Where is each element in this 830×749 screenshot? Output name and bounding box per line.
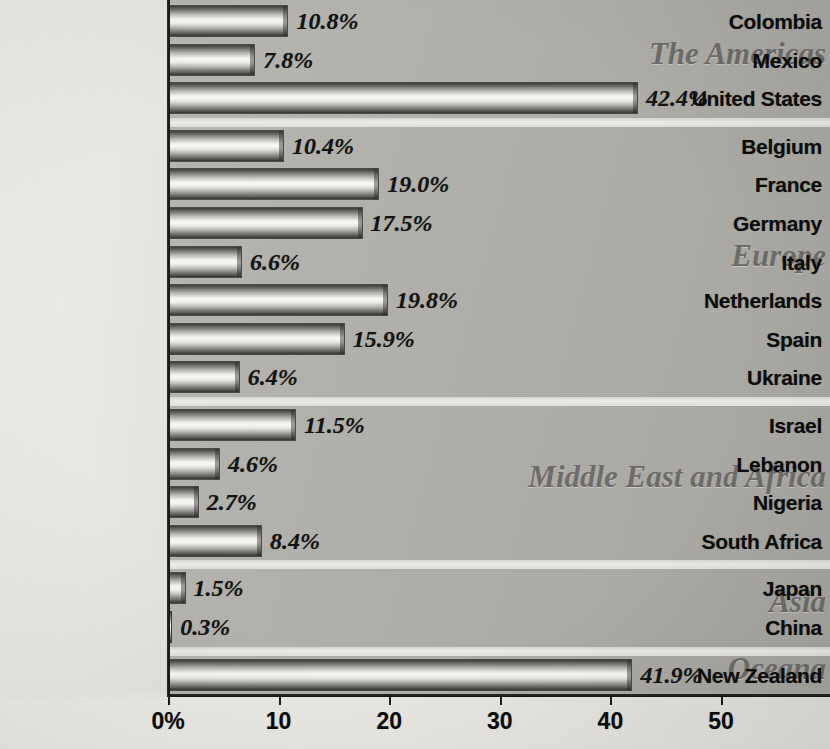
bar-value-label: 6.4% xyxy=(248,364,298,391)
x-axis-tick-label: 40 xyxy=(598,708,624,735)
bar xyxy=(168,6,287,36)
bar xyxy=(168,169,378,199)
category-label: Japan xyxy=(662,577,822,601)
bar-value-label: 1.5% xyxy=(194,575,244,602)
category-label: Belgium xyxy=(662,135,822,159)
region-separator xyxy=(168,560,830,569)
bar-end-cap xyxy=(383,285,387,315)
bar xyxy=(168,45,254,75)
category-label-column xyxy=(0,0,168,694)
bar xyxy=(168,573,185,603)
category-label: France xyxy=(662,173,822,197)
x-axis-tick-label: 10 xyxy=(266,708,292,735)
bar-value-label: 10.8% xyxy=(296,8,358,35)
bar-end-cap xyxy=(627,660,631,690)
bar-value-label: 4.6% xyxy=(228,451,278,478)
bar-value-label: 10.4% xyxy=(292,133,354,160)
x-axis-tick-label: 30 xyxy=(487,708,513,735)
x-axis-tick xyxy=(168,694,170,705)
bar xyxy=(168,449,219,479)
bar xyxy=(168,526,261,556)
bar-value-label: 8.4% xyxy=(270,528,320,555)
category-label: Germany xyxy=(662,212,822,236)
bar-value-label: 6.6% xyxy=(250,249,300,276)
y-axis-line xyxy=(167,0,170,697)
region-separator xyxy=(168,118,830,127)
bar-end-cap xyxy=(283,6,287,36)
bar-value-label: 15.9% xyxy=(353,326,415,353)
bar-value-label: 0.3% xyxy=(180,614,230,641)
category-label: United States xyxy=(662,87,822,111)
bar-end-cap xyxy=(215,449,219,479)
category-label: Colombia xyxy=(662,10,822,34)
x-axis-tick xyxy=(500,694,502,705)
category-label: Ukraine xyxy=(662,366,822,390)
bar-end-cap xyxy=(279,131,283,161)
bar-value-label: 7.8% xyxy=(263,47,313,74)
bar-end-cap xyxy=(374,169,378,199)
x-axis-tick xyxy=(389,694,391,705)
bar xyxy=(168,285,387,315)
bar-chart: 10.8%7.8%42.4%10.4%19.0%17.5%6.6%19.8%15… xyxy=(0,0,830,749)
bar xyxy=(168,247,241,277)
category-label: Mexico xyxy=(662,49,822,73)
bar-end-cap xyxy=(194,487,198,517)
bar-end-cap xyxy=(291,410,295,440)
x-axis-tick-label: 0% xyxy=(151,708,184,735)
bar xyxy=(168,208,362,238)
category-label: Spain xyxy=(662,328,822,352)
bar xyxy=(168,83,637,113)
category-label: Nigeria xyxy=(662,491,822,515)
bar-value-label: 19.0% xyxy=(387,171,449,198)
bar-end-cap xyxy=(235,362,239,392)
region-separator xyxy=(168,397,830,406)
category-label: South Africa xyxy=(662,530,822,554)
bar-value-label: 11.5% xyxy=(304,412,365,439)
x-axis-tick-label: 20 xyxy=(376,708,402,735)
bar xyxy=(168,410,295,440)
bar-end-cap xyxy=(257,526,261,556)
bar-value-label: 2.7% xyxy=(207,489,257,516)
category-label: Lebanon xyxy=(662,453,822,477)
category-label: Italy xyxy=(662,251,822,275)
x-axis-tick-label: 50 xyxy=(708,708,734,735)
bar xyxy=(168,324,344,354)
bar-end-cap xyxy=(633,83,637,113)
axis-label-strip xyxy=(0,697,830,749)
x-axis-tick xyxy=(279,694,281,705)
bar-end-cap xyxy=(237,247,241,277)
x-axis-tick xyxy=(610,694,612,705)
bar-end-cap xyxy=(358,208,362,238)
category-label: New Zealand xyxy=(662,664,822,688)
bar xyxy=(168,487,198,517)
bar xyxy=(168,660,631,690)
category-label: China xyxy=(662,616,822,640)
x-axis-tick xyxy=(721,694,723,705)
bar-value-label: 17.5% xyxy=(371,210,433,237)
bar-end-cap xyxy=(181,573,185,603)
bar-end-cap xyxy=(340,324,344,354)
bar-value-label: 19.8% xyxy=(396,287,458,314)
category-label: Netherlands xyxy=(662,289,822,313)
bar xyxy=(168,131,283,161)
category-label: Israel xyxy=(662,414,822,438)
bar-end-cap xyxy=(250,45,254,75)
bar xyxy=(168,362,239,392)
